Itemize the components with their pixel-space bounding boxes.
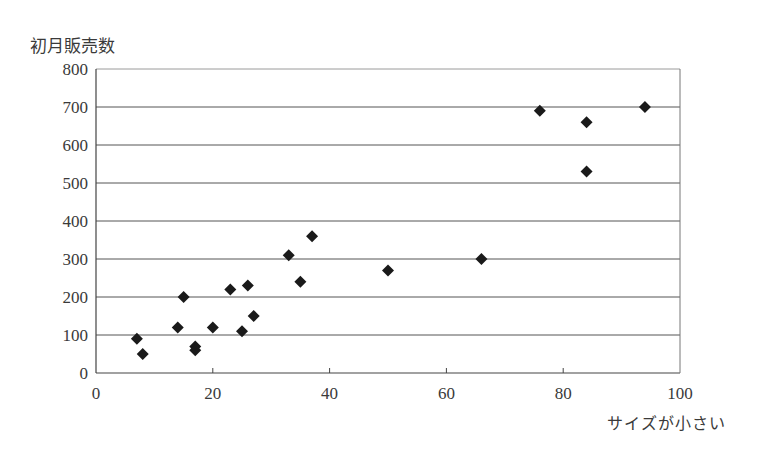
y-tick-label: 100	[63, 326, 89, 345]
y-tick-label: 300	[63, 250, 89, 269]
x-tick-label: 40	[321, 384, 338, 403]
y-tick-label: 700	[63, 98, 89, 117]
data-point-diamond-icon	[581, 166, 593, 178]
y-tick-label: 500	[63, 174, 89, 193]
x-tick-label: 100	[667, 384, 693, 403]
data-point-diamond-icon	[382, 264, 394, 276]
data-point-diamond-icon	[207, 321, 219, 333]
data-point-diamond-icon	[294, 276, 306, 288]
data-points	[131, 101, 651, 360]
data-point-diamond-icon	[306, 230, 318, 242]
data-point-diamond-icon	[639, 101, 651, 113]
y-tick-label: 800	[63, 60, 89, 79]
y-tick-label: 600	[63, 136, 89, 155]
y-tick-label: 400	[63, 212, 89, 231]
data-point-diamond-icon	[137, 348, 149, 360]
y-axis-ticks: 0100200300400500600700800	[63, 60, 89, 383]
x-tick-label: 60	[438, 384, 455, 403]
x-tick-label: 0	[92, 384, 101, 403]
data-point-diamond-icon	[242, 280, 254, 292]
y-tick-label: 200	[63, 288, 89, 307]
data-point-diamond-icon	[172, 321, 184, 333]
data-point-diamond-icon	[248, 310, 260, 322]
data-point-diamond-icon	[475, 253, 487, 265]
x-tick-label: 20	[204, 384, 221, 403]
scatter-plot: 0100200300400500600700800 020406080100	[0, 0, 782, 453]
x-tick-label: 80	[555, 384, 572, 403]
data-point-diamond-icon	[581, 116, 593, 128]
y-tick-label: 0	[80, 364, 89, 383]
data-point-diamond-icon	[178, 291, 190, 303]
data-point-diamond-icon	[224, 283, 236, 295]
